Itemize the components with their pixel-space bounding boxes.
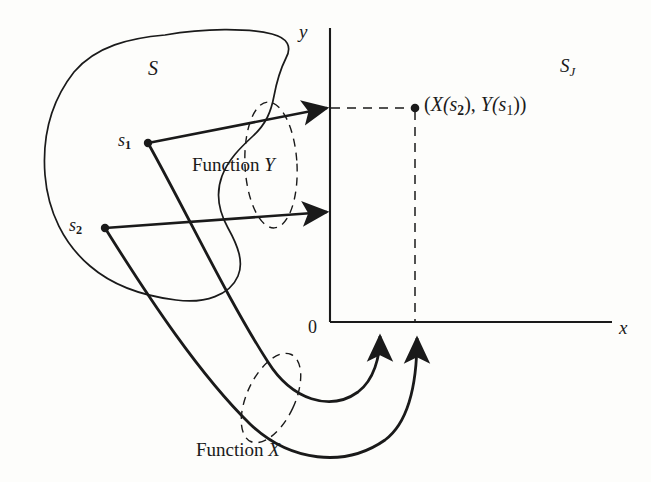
function-x-arrow-from-s2 <box>105 228 417 457</box>
mapped-point-dot <box>411 104 420 113</box>
mapped-point-label: (X(s2), Y(s1)) <box>424 94 527 117</box>
sample-point-s1-label: s1 <box>118 131 131 152</box>
s2-subscript: 2 <box>76 223 82 237</box>
s2-letter: s <box>69 215 76 235</box>
origin-label: 0 <box>308 318 317 336</box>
point-y-arg-close: ) <box>513 93 520 115</box>
point-comma: , <box>471 93 481 115</box>
point-y-arg-open: (s <box>492 93 506 115</box>
function-y-arrow-from-s1 <box>148 108 327 143</box>
point-x-arg-open: (s <box>443 93 457 115</box>
function-x-text: Function <box>196 439 268 460</box>
sample-point-s2-label: s2 <box>69 216 82 237</box>
function-y-letter: Y <box>264 154 275 175</box>
s1-subscript: 1 <box>125 138 131 152</box>
function-x-letter: X <box>268 439 280 460</box>
function-x-label: Function X <box>196 440 280 459</box>
image-space-subscript: J <box>570 64 576 79</box>
function-y-text: Function <box>192 154 264 175</box>
x-axis-label: x <box>619 318 627 337</box>
point-close-paren: ) <box>520 93 527 115</box>
function-y-arrow-from-s2 <box>105 212 327 228</box>
point-open-paren: ( <box>424 93 431 115</box>
y-axis-label: y <box>299 22 307 41</box>
figure-canvas: S SJ s1 s2 y x 0 (X(s2), Y(s1)) Function… <box>0 0 651 482</box>
function-y-label: Function Y <box>192 155 275 174</box>
function-x-arrow-from-s1 <box>148 143 380 402</box>
point-x-arg-close: ) <box>464 93 471 115</box>
s1-letter: s <box>118 130 125 150</box>
image-space-letter: S <box>560 55 570 76</box>
function-x-annotation-ellipse <box>229 344 313 451</box>
sample-space-label: S <box>148 58 158 78</box>
point-x-function: X <box>431 93 443 115</box>
diagram-svg <box>0 0 651 482</box>
image-space-label: SJ <box>560 56 575 79</box>
point-y-function: Y <box>481 93 492 115</box>
